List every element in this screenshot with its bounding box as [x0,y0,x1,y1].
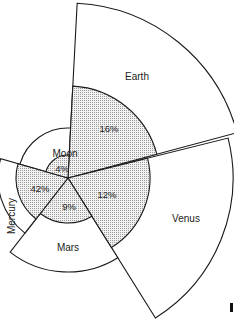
moon-percent-label: 4% [55,163,69,174]
page-edge-mark [230,303,233,312]
mercury-percent-label: 42% [30,183,50,194]
earth-label: Earth [125,71,149,82]
mars-label: Mars [57,242,79,253]
venus-percent-label: 12% [97,189,117,200]
earth-percent-label: 16% [99,123,119,134]
moon-label: Moon [52,148,77,159]
mercury-label: Mercury [6,198,17,234]
mars-percent-label: 9% [62,201,76,212]
polar-diagram: Earth16%Venus12%Mars9%Mercury42%Moon4% [0,0,234,319]
venus-label: Venus [172,213,200,224]
wedges-group [0,3,234,318]
